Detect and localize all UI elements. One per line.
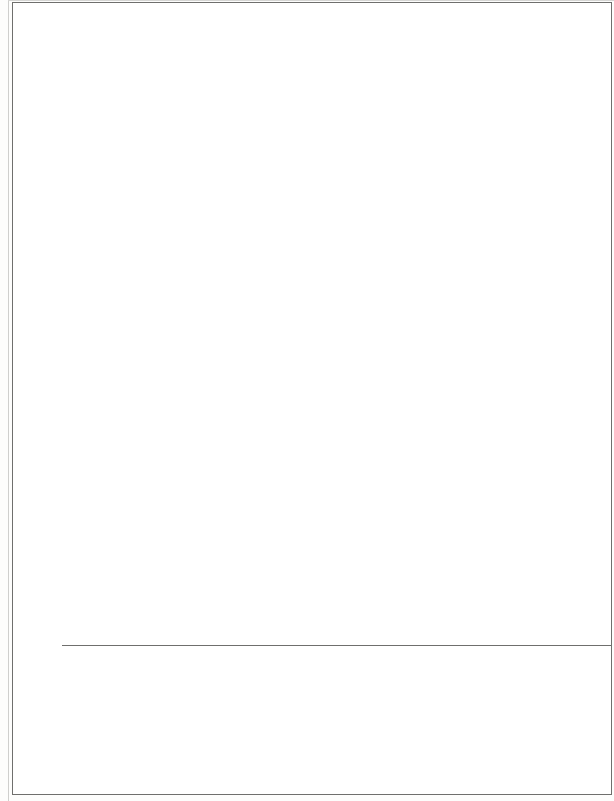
page-border-top [8, 0, 614, 1]
chart-page [0, 0, 614, 801]
plot-inner [62, 2, 612, 643]
page-border-left [8, 0, 9, 801]
category-label-strip [62, 645, 612, 793]
plot-area [62, 2, 612, 643]
chart-title [16, 645, 62, 793]
